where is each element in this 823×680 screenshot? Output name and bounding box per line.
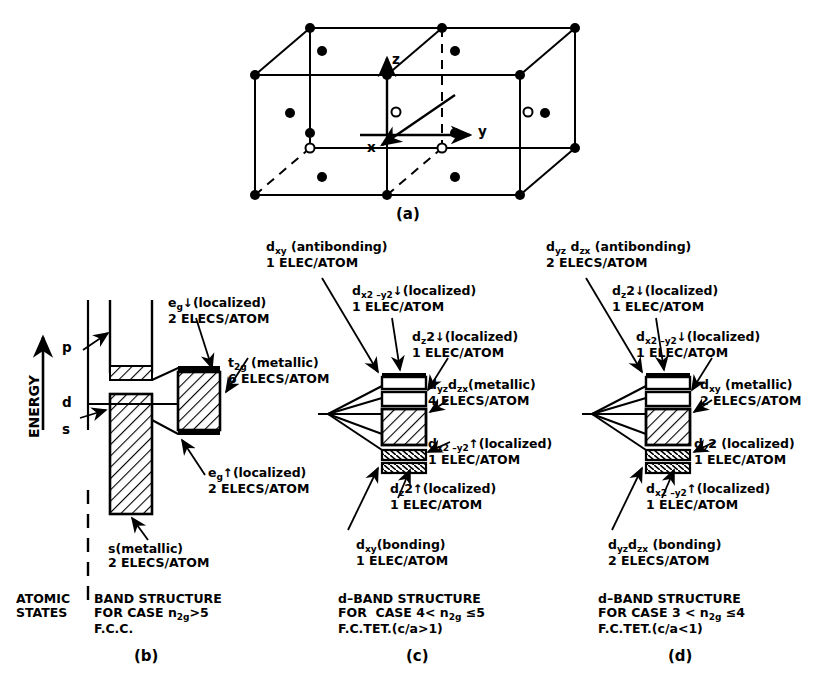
label-eg-up-localized: eg↑(localized)2 ELECS/ATOM	[208, 466, 309, 496]
label-t2g-metallic: t2g (metallic)6 ELECS/ATOM	[228, 356, 329, 386]
atomic-state-p: p	[62, 340, 72, 355]
figure-root: z y x (a) ENERGY p d s eg↓(localized)2 E…	[0, 0, 823, 680]
label-c-dyz-dzx-metallic: dyzdzx(metallic)4 ELECS/ATOM	[428, 378, 536, 408]
label-c-dx2y2-down-localized: dx2 –y2↓(localized)1 ELEC/ATOM	[352, 284, 476, 314]
panel-a-face-atoms	[285, 46, 550, 182]
panel-c-id: (c)	[406, 648, 429, 665]
label-c-dz2-down-localized: dz2↓(localized)1 ELEC/ATOM	[412, 330, 518, 360]
panel-d-id: (d)	[668, 648, 692, 665]
panel-a-id: (a)	[396, 206, 420, 223]
label-d-dyz-dzx-bonding: dyzdzx (bonding)2 ELECS/ATOM	[608, 538, 721, 568]
label-c-dx2y2-up-localized: dx2 –y2↑(localized)1 ELEC/ATOM	[428, 437, 552, 467]
panel-b-caption-right: BAND STRUCTUREFOR CASE n2g>5F.C.C.	[94, 592, 222, 636]
label-s-metallic: s(metallic)2 ELECS/ATOM	[108, 542, 209, 570]
atomic-state-d: d	[62, 395, 72, 410]
label-c-dxy-bonding: dxy(bonding)1 ELEC/ATOM	[356, 538, 448, 568]
panel-b-id: (b)	[134, 648, 158, 665]
panel-b-caption-left: ATOMICSTATES	[16, 592, 70, 620]
label-d-dx2y2-up-localized: dx2 –y2↑(localized)1 ELEC/ATOM	[646, 482, 770, 512]
axis-label-y: y	[478, 124, 487, 139]
energy-axis-label: ENERGY	[26, 375, 42, 438]
axis-label-x: x	[367, 140, 376, 155]
panel-d-caption: d–BAND STRUCTUREFOR CASE 3 < n2g ≤4F.C.T…	[598, 592, 745, 636]
label-d-dxy-metallic: dxy (metallic)2 ELECS/ATOM	[700, 378, 801, 408]
atomic-state-s: s	[62, 422, 70, 437]
label-d-dx2y2-down-localized: dx2 –y2↓(localized)1 ELEC/ATOM	[636, 330, 760, 360]
panel-c-caption: d–BAND STRUCTUREFOR CASE 4< n2g ≤5F.C.TE…	[338, 592, 485, 636]
label-d-dz2-localized: dz2 (localized)1 ELEC/ATOM	[694, 437, 795, 467]
label-c-dxy-antibonding: dxy (antibonding)1 ELEC/ATOM	[266, 240, 388, 270]
label-c-dz2-up-localized: dz2↑(localized)1 ELEC/ATOM	[390, 482, 496, 512]
label-eg-down-localized: eg↓(localized)2 ELECS/ATOM	[168, 296, 269, 326]
label-d-dz2-down-localized: dz2↓(localized)1 ELEC/ATOM	[612, 284, 718, 314]
axis-label-z: z	[392, 52, 400, 67]
panel-a-open-atoms	[306, 108, 533, 153]
label-d-dyz-dzx-antibonding: dyz dzx (antibonding)2 ELECS/ATOM	[546, 240, 691, 270]
